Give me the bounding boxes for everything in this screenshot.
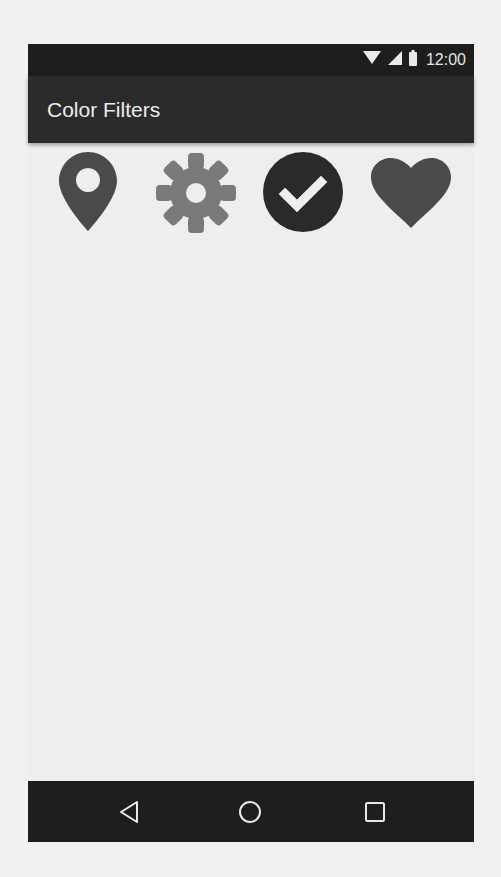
battery-icon	[409, 50, 417, 70]
wifi-icon	[363, 51, 381, 69]
recents-square-icon	[362, 799, 388, 825]
home-circle-icon	[237, 799, 263, 825]
phone-screen: 12:00 Color Filters	[28, 44, 474, 842]
navigation-bar	[28, 781, 474, 842]
check-circle-icon	[263, 152, 343, 236]
app-toolbar: Color Filters	[28, 76, 474, 143]
location-pin-icon	[59, 152, 117, 235]
back-triangle-icon	[116, 799, 142, 825]
page-title: Color Filters	[47, 98, 160, 122]
status-bar: 12:00	[28, 44, 474, 76]
gear-icon	[156, 153, 236, 237]
clock: 12:00	[426, 51, 466, 69]
home-button[interactable]	[237, 799, 263, 825]
heart-icon	[371, 158, 451, 232]
back-button[interactable]	[116, 799, 142, 825]
icon-row	[28, 151, 474, 235]
cellular-signal-icon	[388, 51, 402, 69]
recents-button[interactable]	[362, 799, 388, 825]
